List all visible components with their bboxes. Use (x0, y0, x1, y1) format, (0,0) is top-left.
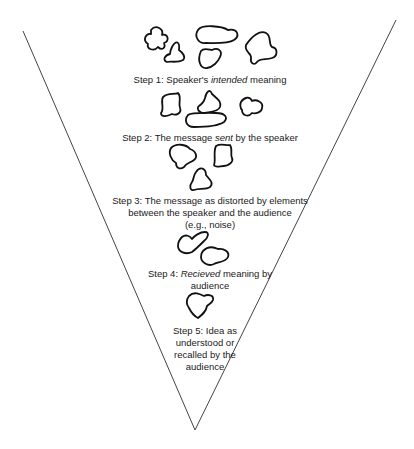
step-2-label: Step 2: The message sent by the speaker (100, 132, 320, 144)
idea-shape (214, 145, 232, 167)
step-4-label: Step 4: Recieved meaning by audience (120, 268, 300, 292)
idea-shape (170, 145, 196, 169)
idea-shape (164, 42, 184, 62)
idea-shape (196, 26, 237, 43)
step-4-ideas (178, 232, 228, 265)
step-5-label: Step 5: Idea as understood or recalled b… (145, 325, 265, 373)
idea-shape (198, 91, 221, 113)
step-2-ideas (161, 91, 262, 127)
idea-shape (240, 98, 262, 116)
idea-shape (161, 93, 180, 116)
idea-shape (199, 49, 221, 68)
idea-shape (145, 27, 168, 49)
idea-shape (201, 247, 228, 265)
idea-shape (246, 32, 277, 64)
step-1-label: Step 1: Speaker's intended meaning (110, 74, 310, 86)
idea-shape (187, 293, 213, 318)
idea-shape (186, 113, 226, 127)
funnel-diagram: Step 1: Speaker's intended meaning Step … (0, 0, 414, 449)
step-3-ideas (170, 145, 233, 191)
step-5-ideas (187, 293, 213, 318)
step-1-ideas (145, 26, 277, 68)
step-3-label: Step 3: The message as distorted by elem… (90, 195, 330, 231)
idea-shape (190, 168, 211, 190)
